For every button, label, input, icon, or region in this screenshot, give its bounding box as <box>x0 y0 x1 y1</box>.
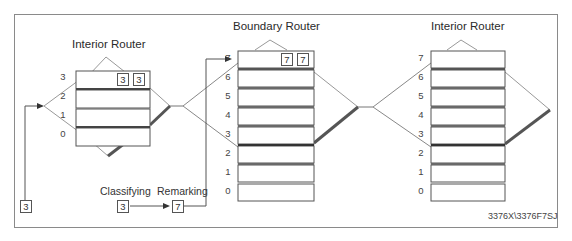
queue-label: 1 <box>58 109 68 120</box>
queue-label: 4 <box>416 109 426 120</box>
queue-label: 5 <box>223 90 233 101</box>
diagram-lines <box>0 0 572 241</box>
packet-tag: 3 <box>117 73 129 86</box>
queue-label: 0 <box>223 185 233 196</box>
remarking-label: Remarking <box>157 185 208 197</box>
center-router-title: Boundary Router <box>233 20 320 32</box>
packet-tag: 3 <box>133 73 145 86</box>
incoming-packet-tag: 3 <box>20 200 32 213</box>
queue-label: 3 <box>416 128 426 139</box>
right-router-title: Interior Router <box>431 20 505 32</box>
classifying-label: Classifying <box>100 185 151 197</box>
classifying-packet-tag: 3 <box>117 200 129 213</box>
queue-label: 7 <box>223 52 233 63</box>
packet-tag: 7 <box>297 53 309 66</box>
center-router-queues <box>238 51 314 201</box>
queue-label: 0 <box>58 128 68 139</box>
queue-label: 7 <box>416 52 426 63</box>
queue-label: 0 <box>416 185 426 196</box>
right-router-queues <box>431 51 505 201</box>
queue-label: 1 <box>416 166 426 177</box>
left-router-title: Interior Router <box>72 38 146 50</box>
queue-label: 4 <box>223 109 233 120</box>
queue-label: 2 <box>223 147 233 158</box>
queue-label: 1 <box>223 166 233 177</box>
queue-label: 2 <box>58 90 68 101</box>
queue-label: 2 <box>416 147 426 158</box>
queue-label: 3 <box>223 128 233 139</box>
remarking-packet-tag: 7 <box>172 200 184 213</box>
figure-code: 3376X\3376F7SJ <box>488 211 558 221</box>
queue-label: 6 <box>223 71 233 82</box>
queue-label: 3 <box>58 71 68 82</box>
packet-tag: 7 <box>281 53 293 66</box>
queue-label: 6 <box>416 71 426 82</box>
queue-label: 5 <box>416 90 426 101</box>
